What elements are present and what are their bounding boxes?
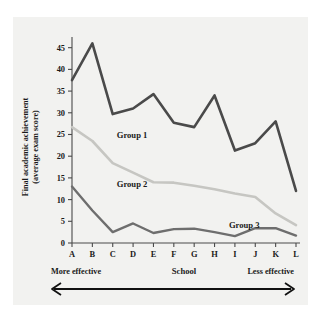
y-axis-title: Final academic achievement (average exam… [21, 97, 40, 196]
y-tick-label: 30 [57, 109, 65, 118]
x-tick-label: I [233, 250, 236, 259]
series-lines [72, 43, 296, 236]
x-tick-label: J [253, 250, 257, 259]
x-tick-label: L [293, 250, 299, 259]
more-effective-label: More effective [51, 267, 101, 276]
y-tick-label: 40 [57, 65, 65, 74]
effectiveness-arrow [52, 283, 294, 295]
y-tick-label: 15 [57, 174, 65, 183]
x-tick-label: A [69, 250, 75, 259]
y-axis-ticks: 051015202530354045 [57, 44, 72, 248]
y-axis-title-line1: Final academic achievement [21, 97, 30, 196]
y-tick-label: 10 [57, 196, 65, 205]
series-line-group-2 [72, 127, 296, 225]
x-axis-ticks: ABCDEFGHIJKL [69, 243, 299, 259]
y-axis-title-line2: (average exam score) [31, 110, 40, 184]
y-tick-label: 45 [57, 44, 65, 53]
y-tick-label: 25 [57, 130, 65, 139]
y-tick-label: 35 [57, 87, 65, 96]
chart-figure: Final academic achievement (average exam… [13, 17, 308, 305]
y-tick-label: 5 [61, 217, 65, 226]
series-line-group-1 [72, 43, 296, 191]
x-axis-title: School [172, 266, 197, 276]
series-labels: Group 1Group 2Group 3 [117, 130, 260, 230]
series-label-group-1: Group 1 [117, 130, 148, 140]
x-tick-label: E [151, 250, 157, 259]
x-tick-label: F [171, 250, 176, 259]
x-tick-label: G [191, 250, 198, 259]
series-label-group-3: Group 3 [229, 220, 260, 230]
x-tick-label: K [272, 250, 279, 259]
x-tick-label: D [130, 250, 136, 259]
series-label-group-2: Group 2 [117, 179, 148, 189]
x-tick-label: C [110, 250, 116, 259]
y-tick-label: 0 [61, 239, 65, 248]
y-tick-label: 20 [57, 152, 65, 161]
x-tick-label: B [90, 250, 96, 259]
series-line-group-3 [72, 187, 296, 236]
line-chart: Final academic achievement (average exam… [13, 17, 308, 305]
less-effective-label: Less effective [247, 267, 294, 276]
x-tick-label: H [211, 250, 218, 259]
